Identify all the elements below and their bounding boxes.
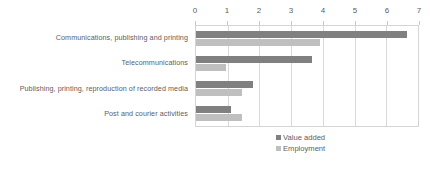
bar[interactable] [196, 106, 231, 113]
bar-group [196, 51, 418, 76]
bar-groups [196, 26, 418, 126]
x-tick-label: 6 [385, 6, 389, 15]
category-label: Communications, publishing and printing [0, 25, 192, 51]
x-tick-label: 2 [257, 6, 261, 15]
bar[interactable] [196, 31, 407, 38]
bar[interactable] [196, 56, 312, 63]
category-label: Post and courier activities [0, 102, 192, 128]
value-axis: 01234567 [195, 6, 419, 25]
bar[interactable] [196, 114, 242, 121]
legend-swatch-icon [276, 146, 281, 151]
legend-item[interactable]: Value added [276, 133, 325, 142]
legend-item[interactable]: Employment [276, 144, 325, 153]
bar[interactable] [196, 64, 226, 71]
legend: Value addedEmployment [276, 133, 325, 153]
category-label: Telecommunications [0, 51, 192, 77]
x-tick-label: 0 [193, 6, 197, 15]
bar[interactable] [196, 39, 320, 46]
x-tick-label: 5 [353, 6, 357, 15]
bar-group [196, 76, 418, 101]
x-tick-mark [419, 21, 420, 25]
x-tick-label: 7 [417, 6, 421, 15]
x-tick-label: 1 [225, 6, 229, 15]
legend-swatch-icon [276, 135, 281, 140]
bar[interactable] [196, 81, 253, 88]
x-tick-label: 3 [289, 6, 293, 15]
category-axis-labels: Communications, publishing and printingT… [0, 25, 192, 127]
legend-label: Employment [283, 144, 325, 153]
bar-group [196, 26, 418, 51]
legend-label: Value added [283, 133, 325, 142]
x-tick-label: 4 [321, 6, 325, 15]
bar-chart: Communications, publishing and printingT… [0, 0, 430, 170]
plot-area [195, 25, 419, 127]
bar-group [196, 101, 418, 126]
bar[interactable] [196, 89, 242, 96]
category-label: Publishing, printing, reproduction of re… [0, 76, 192, 102]
